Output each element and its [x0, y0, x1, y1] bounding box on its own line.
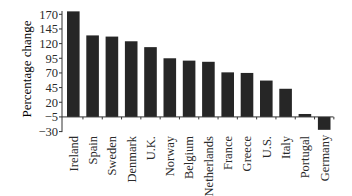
bar-denmark — [125, 41, 138, 117]
x-category-label: Portugal — [298, 135, 312, 178]
bar-germany — [318, 117, 331, 130]
y-tick-label: 20 — [46, 96, 59, 110]
bar-italy — [279, 89, 292, 117]
x-category-label: U.S. — [260, 136, 274, 158]
bar-u-s — [260, 81, 273, 117]
x-category-label: Belgium — [182, 136, 196, 179]
x-axis — [62, 117, 334, 120]
bar-belgium — [183, 61, 196, 117]
y-tick-label: 145 — [39, 22, 58, 36]
bar-ireland — [67, 11, 80, 117]
y-tick-label: −30 — [38, 125, 58, 139]
x-category-label: U.K. — [144, 136, 158, 160]
y-tick-label: 170 — [39, 8, 58, 22]
y-tick-label: 95 — [46, 52, 59, 66]
x-category-label: Italy — [279, 135, 293, 159]
bar-netherlands — [202, 62, 215, 117]
y-axis-label: Percentage change — [19, 20, 34, 117]
x-axis-category-labels: IrelandSpainSwedenDenmarkU.K.NorwayBelgi… — [67, 134, 332, 196]
bar-chart: Percentage change 17014512095704520−5−30… — [0, 0, 352, 196]
bar-u-k — [144, 47, 157, 117]
x-category-label: Sweden — [105, 135, 119, 175]
x-category-label: France — [221, 136, 235, 170]
y-axis-title: Percentage change — [19, 20, 34, 117]
y-axis: 17014512095704520−5−30 — [38, 8, 62, 139]
x-category-label: Denmark — [125, 135, 139, 182]
x-category-label: Norway — [163, 135, 177, 176]
x-category-label: Greece — [240, 136, 254, 172]
bar-norway — [164, 58, 177, 117]
bar-france — [221, 72, 234, 117]
x-category-label: Spain — [86, 135, 100, 164]
y-tick-label: −5 — [45, 110, 58, 124]
bar-sweden — [106, 37, 119, 117]
x-category-label: Ireland — [67, 135, 81, 171]
x-category-label: Germany — [318, 134, 332, 181]
y-tick-label: 120 — [39, 37, 58, 51]
bar-greece — [241, 73, 254, 117]
bars — [67, 11, 331, 129]
x-category-label: Netherlands — [202, 136, 216, 196]
y-tick-label: 70 — [46, 66, 59, 80]
bar-spain — [86, 35, 99, 117]
y-tick-label: 45 — [46, 81, 59, 95]
